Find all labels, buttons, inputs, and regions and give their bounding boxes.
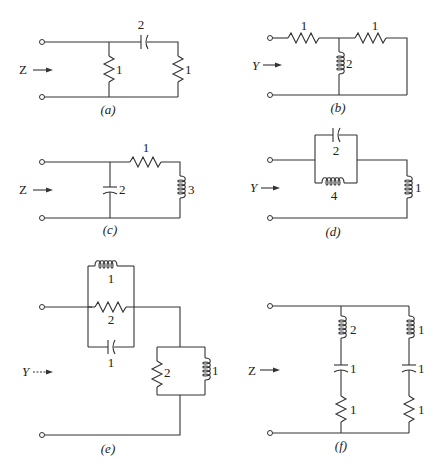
resistor-value: 1 (185, 62, 192, 77)
terminal-bottom (40, 216, 45, 221)
terminal-top (40, 40, 45, 45)
capacitor-value: 1 (418, 361, 425, 376)
circuit-c: 1 2 3 Z (c) (19, 140, 195, 237)
inductor-value: 1 (415, 180, 422, 195)
panel-caption: (e) (101, 441, 115, 456)
resistor-value: 1 (116, 62, 123, 77)
capacitor-value: 2 (119, 182, 126, 197)
resistor-value: 2 (164, 365, 171, 380)
resistor-icon (404, 396, 414, 422)
port-label: Z (19, 62, 27, 77)
arrow-right-icon (263, 63, 282, 68)
inductor-value: 1 (418, 322, 425, 337)
inductor-icon (203, 358, 211, 380)
terminal-top (268, 158, 273, 163)
terminal-top (268, 36, 273, 41)
terminal-bottom (268, 216, 273, 221)
inductor-icon (178, 176, 186, 198)
port-label: Y (250, 180, 259, 195)
circuit-figure: 2 1 1 Z (a) 1 2 1 Y (b) (0, 0, 443, 474)
capacitor-value: 1 (108, 355, 115, 370)
circuit-f: 2 1 1 1 1 1 Z (f) (248, 304, 425, 454)
terminal-top (268, 304, 273, 309)
terminal-bottom (40, 95, 45, 100)
inductor-value: 3 (188, 182, 195, 197)
capacitor-icon (108, 340, 115, 354)
panel-caption: (f) (335, 438, 347, 453)
resistor-value: 1 (143, 140, 150, 155)
resistor-value: 2 (108, 312, 115, 327)
inductor-icon (95, 261, 117, 269)
terminal-top (40, 305, 45, 310)
arrow-right-icon (33, 370, 53, 375)
inductor-icon (337, 52, 345, 74)
port-label: Y (22, 364, 31, 379)
port-label: Z (19, 182, 27, 197)
panel-caption: (c) (103, 222, 117, 237)
resistor-icon (288, 33, 319, 43)
resistor-value: 1 (418, 402, 425, 417)
inductor-value: 1 (212, 363, 219, 378)
capacitor-icon (141, 35, 148, 49)
circuit-e: 1 2 1 2 1 Y (e) (22, 261, 219, 456)
terminal-bottom (40, 433, 45, 438)
capacitor-value: 1 (350, 361, 357, 376)
circuit-b: 1 2 1 Y (b) (252, 18, 407, 115)
inductor-value: 1 (108, 271, 115, 286)
terminal-top (40, 160, 45, 165)
resistor-icon (355, 33, 386, 43)
capacitor-icon (333, 128, 340, 142)
inductor-icon (405, 176, 413, 198)
capacitor-value: 2 (138, 17, 145, 32)
resistor-value: 1 (301, 18, 308, 33)
inductor-icon (322, 178, 344, 186)
resistor-icon (95, 302, 126, 312)
arrow-right-icon (33, 188, 53, 193)
resistor-icon (336, 396, 346, 422)
capacitor-value: 2 (333, 143, 340, 158)
resistor-icon (173, 56, 183, 82)
resistor-icon (152, 361, 162, 387)
arrow-right-icon (260, 368, 280, 373)
resistor-value: 1 (350, 402, 357, 417)
inductor-value: 2 (350, 322, 357, 337)
panel-caption: (a) (100, 102, 115, 117)
inductor-value: 2 (346, 56, 353, 71)
terminal-bottom (268, 431, 273, 436)
panel-caption: (b) (330, 100, 345, 115)
inductor-icon (407, 316, 415, 338)
port-label: Y (252, 58, 261, 73)
resistor-value: 1 (372, 18, 379, 33)
inductor-value: 4 (331, 188, 338, 203)
arrow-right-icon (261, 186, 280, 191)
resistor-icon (130, 157, 161, 167)
circuit-a: 2 1 1 Z (a) (19, 17, 192, 117)
port-label: Z (248, 363, 256, 378)
inductor-icon (339, 316, 347, 338)
terminal-bottom (268, 93, 273, 98)
circuit-d: 2 4 1 Y (d) (250, 128, 422, 239)
resistor-icon (104, 56, 114, 82)
arrow-right-icon (33, 68, 53, 73)
panel-caption: (d) (325, 224, 340, 239)
